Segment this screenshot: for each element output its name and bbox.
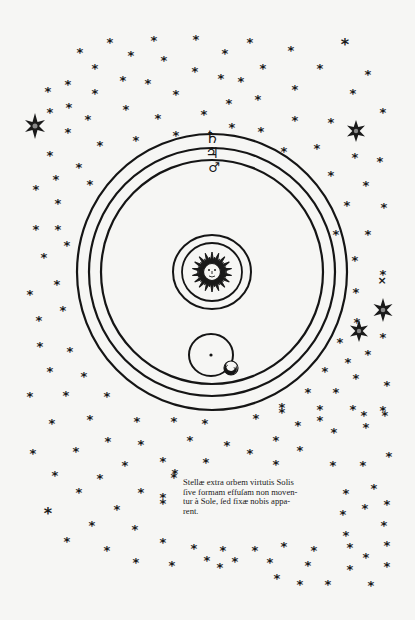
svg-text:*: * — [292, 82, 299, 97]
svg-text:*: * — [76, 485, 83, 500]
svg-text:*: * — [151, 33, 158, 48]
svg-text:*: * — [337, 335, 344, 350]
svg-text:*: * — [362, 501, 369, 516]
svg-text:*: * — [203, 455, 210, 470]
svg-text:*: * — [65, 77, 72, 92]
svg-text:*: * — [55, 222, 62, 237]
svg-text:*: * — [288, 43, 295, 58]
svg-text:*: * — [160, 496, 167, 511]
svg-text:*: * — [353, 371, 360, 386]
svg-text:*: * — [92, 86, 99, 101]
svg-text:*: * — [347, 540, 354, 555]
svg-text:*: * — [172, 466, 179, 481]
svg-text:*: * — [365, 347, 372, 362]
svg-text:*: * — [27, 287, 34, 302]
svg-text:×: × — [377, 274, 386, 287]
svg-text:*: * — [92, 61, 99, 76]
svg-text:*: * — [65, 125, 72, 140]
svg-text:*: * — [295, 418, 302, 433]
svg-text:*: * — [63, 388, 70, 403]
svg-text:*: * — [173, 87, 180, 102]
svg-text:*: * — [281, 539, 288, 554]
svg-text:*: * — [145, 76, 152, 91]
svg-text:*: * — [33, 182, 40, 197]
svg-text:*: * — [224, 438, 231, 453]
svg-text:*: * — [44, 504, 53, 523]
svg-text:*: * — [104, 543, 111, 558]
svg-text:*: * — [87, 177, 94, 192]
svg-text:*: * — [297, 577, 304, 592]
svg-text:*: * — [381, 518, 388, 533]
svg-text:*: * — [85, 112, 92, 127]
svg-text:*: * — [238, 74, 245, 89]
svg-text:*: * — [317, 61, 324, 76]
svg-text:*: * — [325, 577, 332, 592]
svg-text:*: * — [160, 454, 167, 469]
svg-text:*: * — [328, 115, 335, 130]
svg-text:*: * — [229, 120, 236, 135]
svg-text:*: * — [133, 555, 140, 570]
svg-text:*: * — [331, 425, 338, 440]
svg-text:*: * — [173, 128, 180, 143]
svg-text:*: * — [155, 111, 162, 126]
svg-text:*: * — [160, 535, 167, 550]
svg-text:*: * — [322, 364, 329, 379]
svg-text:*: * — [340, 507, 347, 522]
svg-text:*: * — [217, 560, 224, 575]
svg-text:*: * — [220, 543, 227, 558]
svg-text:*: * — [123, 102, 130, 117]
svg-text:*: * — [371, 481, 378, 496]
svg-text:*: * — [132, 522, 139, 537]
svg-text:*: * — [360, 458, 367, 473]
svg-text:*: * — [386, 449, 393, 464]
svg-text:*: * — [133, 133, 140, 148]
svg-text:*: * — [252, 543, 259, 558]
crescent-moon-icon — [224, 361, 238, 375]
svg-text:*: * — [344, 198, 351, 213]
svg-text:*: * — [363, 550, 370, 565]
svg-text:*: * — [279, 405, 286, 420]
svg-text:*: * — [55, 196, 62, 211]
mars-symbol: ♂ — [208, 160, 220, 175]
svg-text:*: * — [341, 35, 350, 54]
svg-text:*: * — [292, 113, 299, 128]
svg-text:*: * — [193, 32, 200, 47]
figure-caption: Stellæ extra orbem virtutis Solis ſive f… — [183, 478, 333, 516]
svg-text:*: * — [247, 35, 254, 50]
svg-text:*: * — [47, 105, 54, 120]
svg-text:*: * — [122, 458, 129, 473]
svg-text:*: * — [305, 385, 312, 400]
svg-text:*: * — [305, 558, 312, 573]
svg-text:*: * — [128, 48, 135, 63]
svg-text:*: * — [64, 534, 71, 549]
svg-text:*: * — [232, 554, 239, 569]
svg-text:*: * — [81, 369, 88, 384]
svg-text:*: * — [64, 238, 71, 253]
svg-text:*: * — [384, 497, 391, 512]
svg-text:*: * — [328, 168, 335, 183]
svg-text:*: * — [273, 457, 280, 472]
svg-text:*: * — [73, 444, 80, 459]
svg-text:*: * — [201, 107, 208, 122]
svg-text:*: * — [253, 411, 260, 426]
svg-text:*: * — [45, 84, 52, 99]
svg-text:*: * — [171, 414, 178, 429]
svg-text:*: * — [138, 485, 145, 500]
svg-text:*: * — [47, 148, 54, 163]
svg-text:*: * — [41, 250, 48, 265]
svg-text:*: * — [380, 105, 387, 120]
svg-text:*: * — [377, 154, 384, 169]
svg-text:*: * — [66, 100, 73, 115]
svg-text:*: * — [89, 518, 96, 533]
svg-text:*: * — [347, 562, 354, 577]
caption-line: rent. — [183, 507, 333, 517]
svg-text:*: * — [138, 437, 145, 452]
svg-text:*: * — [218, 71, 225, 86]
svg-text:*: * — [314, 141, 321, 156]
svg-text:*: * — [274, 571, 281, 586]
svg-text:*: * — [161, 53, 168, 68]
svg-text:*: * — [222, 46, 229, 61]
woodcut-figure: ♄ ♃ ♂ — [0, 0, 415, 620]
svg-text:*: * — [202, 416, 209, 431]
earth-dot — [209, 353, 212, 356]
